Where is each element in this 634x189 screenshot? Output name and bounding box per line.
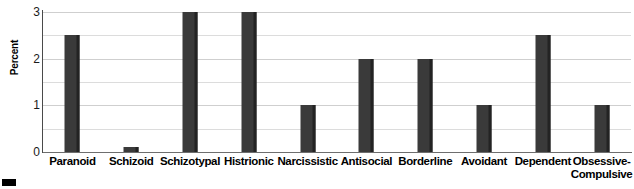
bar — [241, 12, 256, 152]
bar-slot — [337, 12, 396, 152]
x-axis-line — [43, 152, 632, 153]
bar — [535, 35, 550, 152]
bar-slot — [396, 12, 455, 152]
bar — [418, 59, 433, 152]
bar-slot — [43, 12, 102, 152]
y-tick-label: 3 — [14, 6, 40, 18]
bar — [476, 105, 491, 152]
caption-square-icon — [2, 179, 16, 186]
bar-chart-figure: Percent 0123 ParanoidSchizoidSchizotypal… — [0, 0, 634, 189]
x-tick-label: Obsessive- Compulsive — [566, 155, 634, 181]
x-axis-tick-labels: ParanoidSchizoidSchizotypalHistrionicNar… — [43, 155, 631, 189]
y-axis-tick-labels: 0123 — [12, 0, 40, 189]
y-tick-label: 1 — [14, 99, 40, 111]
bar-slot — [513, 12, 572, 152]
bar-slot — [219, 12, 278, 152]
bar-slot — [161, 12, 220, 152]
bar — [65, 35, 80, 152]
bar — [182, 12, 197, 152]
bar — [300, 105, 315, 152]
bar-slot — [572, 12, 631, 152]
bar-slot — [278, 12, 337, 152]
bar-slot — [102, 12, 161, 152]
bar — [124, 147, 139, 152]
bar-slot — [455, 12, 514, 152]
bar-series — [43, 12, 631, 152]
y-tick-label: 2 — [14, 53, 40, 65]
bar — [594, 105, 609, 152]
bar — [359, 59, 374, 152]
